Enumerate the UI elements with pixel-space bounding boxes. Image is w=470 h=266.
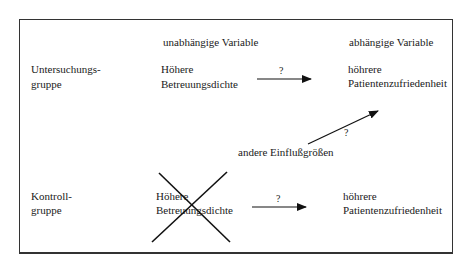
other-factors-arrow bbox=[308, 111, 378, 144]
diagram-graphics bbox=[0, 0, 470, 266]
cross-out-icon bbox=[152, 172, 230, 242]
